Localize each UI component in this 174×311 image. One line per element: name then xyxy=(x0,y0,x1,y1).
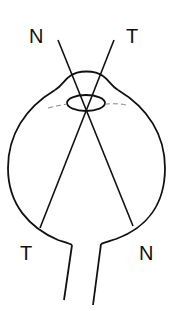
eye-globe-outline xyxy=(8,90,165,245)
optic-nerve-right xyxy=(93,244,101,305)
iris-line-right xyxy=(105,104,126,105)
eye-diagram xyxy=(0,0,174,311)
optic-nerve-left xyxy=(64,245,72,300)
label-bottom-temporal: T xyxy=(20,243,32,263)
label-top-nasal: N xyxy=(29,26,43,46)
ray-temporal xyxy=(40,40,114,228)
iris-line-left xyxy=(48,104,67,108)
label-top-temporal: T xyxy=(126,26,138,46)
label-bottom-nasal: N xyxy=(139,243,153,263)
ray-nasal xyxy=(58,40,133,226)
cornea xyxy=(55,72,118,91)
